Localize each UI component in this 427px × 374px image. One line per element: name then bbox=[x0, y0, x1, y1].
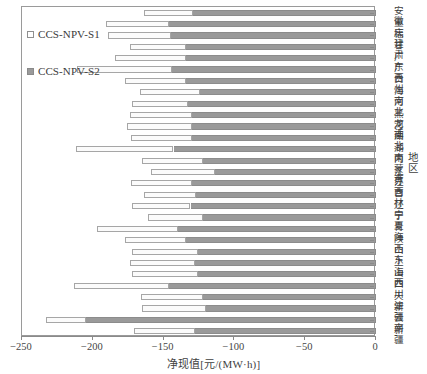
bar-segment-s2[interactable] bbox=[169, 21, 376, 27]
bar-segment-s2[interactable] bbox=[178, 226, 376, 232]
bar-segment-s2[interactable] bbox=[191, 203, 377, 209]
bar-segment-s2[interactable] bbox=[203, 214, 376, 220]
bar-row[interactable] bbox=[22, 78, 374, 84]
bar-segment-s2[interactable] bbox=[215, 169, 376, 175]
y-axis-tick bbox=[370, 70, 374, 71]
bars-layer bbox=[22, 7, 374, 335]
y-axis-tick bbox=[370, 263, 374, 264]
bar-segment-s1[interactable] bbox=[132, 271, 197, 277]
legend-item-ccs-npv-s2[interactable]: CCS-NPV-S2 bbox=[27, 65, 100, 77]
bar-segment-s2[interactable] bbox=[195, 328, 376, 334]
bar-row[interactable] bbox=[22, 135, 374, 141]
bar-segment-s1[interactable] bbox=[144, 10, 194, 16]
bar-row[interactable] bbox=[22, 146, 374, 152]
bar-segment-s1[interactable] bbox=[130, 112, 192, 118]
bar-row[interactable] bbox=[22, 180, 374, 186]
bar-row[interactable] bbox=[22, 226, 374, 232]
chart-root: −250−200−150−100−500 净现值[元/(MW·h)] 安徽重庆福… bbox=[0, 0, 427, 374]
bar-segment-s1[interactable] bbox=[74, 283, 169, 289]
bar-segment-s2[interactable] bbox=[188, 101, 376, 107]
bar-segment-s1[interactable] bbox=[130, 44, 187, 50]
bar-row[interactable] bbox=[22, 249, 374, 255]
bar-row[interactable] bbox=[22, 283, 374, 289]
y-axis-tick bbox=[370, 252, 374, 253]
bar-segment-s1[interactable] bbox=[131, 135, 192, 141]
bar-row[interactable] bbox=[22, 294, 374, 300]
y-axis-tick bbox=[370, 286, 374, 287]
bar-segment-s2[interactable] bbox=[203, 294, 376, 300]
bar-row[interactable] bbox=[22, 305, 374, 311]
bar-segment-s2[interactable] bbox=[198, 271, 376, 277]
bar-segment-s2[interactable] bbox=[192, 180, 376, 186]
bar-segment-s1[interactable] bbox=[97, 226, 178, 232]
bar-segment-s1[interactable] bbox=[108, 32, 170, 38]
bar-row[interactable] bbox=[22, 271, 374, 277]
y-axis-tick bbox=[370, 331, 374, 332]
bar-segment-s1[interactable] bbox=[46, 317, 86, 323]
bar-segment-s1[interactable] bbox=[76, 146, 174, 152]
bar-segment-s1[interactable] bbox=[132, 203, 190, 209]
bar-row[interactable] bbox=[22, 89, 374, 95]
bar-segment-s2[interactable] bbox=[171, 32, 376, 38]
bar-segment-s2[interactable] bbox=[193, 10, 376, 16]
bar-row[interactable] bbox=[22, 21, 374, 27]
bar-segment-s1[interactable] bbox=[131, 180, 192, 186]
bar-segment-s2[interactable] bbox=[196, 192, 376, 198]
bar-row[interactable] bbox=[22, 123, 374, 129]
bar-segment-s1[interactable] bbox=[142, 158, 203, 164]
bar-segment-s1[interactable] bbox=[141, 294, 203, 300]
bar-segment-s2[interactable] bbox=[186, 44, 376, 50]
y-axis-tick bbox=[370, 58, 374, 59]
bar-segment-s1[interactable] bbox=[132, 249, 197, 255]
bar-segment-s2[interactable] bbox=[200, 89, 376, 95]
bar-row[interactable] bbox=[22, 214, 374, 220]
bar-segment-s2[interactable] bbox=[198, 249, 376, 255]
bar-segment-s2[interactable] bbox=[195, 260, 376, 266]
bar-segment-s2[interactable] bbox=[186, 78, 376, 84]
legend-item-ccs-npv-s1[interactable]: CCS-NPV-S1 bbox=[27, 28, 100, 40]
bar-row[interactable] bbox=[22, 237, 374, 243]
bar-row[interactable] bbox=[22, 192, 374, 198]
bar-segment-s2[interactable] bbox=[172, 66, 376, 72]
bar-segment-s2[interactable] bbox=[86, 317, 376, 323]
bar-row[interactable] bbox=[22, 317, 374, 323]
bar-segment-s1[interactable] bbox=[148, 214, 203, 220]
y-axis-title: 地区 bbox=[404, 152, 419, 174]
bar-segment-s1[interactable] bbox=[106, 21, 170, 27]
bar-segment-s1[interactable] bbox=[140, 89, 201, 95]
legend-label-s1: CCS-NPV-S1 bbox=[38, 28, 100, 40]
bar-segment-s2[interactable] bbox=[169, 283, 376, 289]
bar-row[interactable] bbox=[22, 203, 374, 209]
bar-row[interactable] bbox=[22, 169, 374, 175]
bar-segment-s2[interactable] bbox=[192, 135, 376, 141]
bar-segment-s2[interactable] bbox=[203, 158, 376, 164]
y-axis-tick bbox=[370, 240, 374, 241]
bar-segment-s1[interactable] bbox=[125, 237, 186, 243]
y-axis-category-labels: 安徽重庆福建甘肃广东广西贵州海南河北黑龙江河南湖北湖南内蒙古江苏江西吉林辽宁宁夏… bbox=[377, 6, 404, 336]
bar-segment-s1[interactable] bbox=[115, 55, 186, 61]
bar-row[interactable] bbox=[22, 112, 374, 118]
bar-segment-s1[interactable] bbox=[127, 123, 192, 129]
bar-segment-s2[interactable] bbox=[186, 55, 376, 61]
bar-row[interactable] bbox=[22, 101, 374, 107]
y-axis-tick bbox=[370, 35, 374, 36]
bar-segment-s2[interactable] bbox=[206, 305, 376, 311]
bar-segment-s1[interactable] bbox=[142, 305, 206, 311]
bar-segment-s2[interactable] bbox=[192, 112, 376, 118]
bar-row[interactable] bbox=[22, 328, 374, 334]
bar-segment-s1[interactable] bbox=[151, 169, 215, 175]
bar-segment-s2[interactable] bbox=[186, 237, 376, 243]
bar-segment-s2[interactable] bbox=[192, 123, 376, 129]
bar-segment-s1[interactable] bbox=[125, 78, 186, 84]
bar-segment-s1[interactable] bbox=[144, 192, 196, 198]
x-axis-tick-label-2: −150 bbox=[152, 341, 174, 352]
bar-segment-s1[interactable] bbox=[132, 101, 187, 107]
bar-row[interactable] bbox=[22, 10, 374, 16]
bar-segment-s1[interactable] bbox=[130, 260, 195, 266]
bar-segment-s1[interactable] bbox=[134, 328, 195, 334]
bar-segment-s2[interactable] bbox=[174, 146, 376, 152]
bar-row[interactable] bbox=[22, 44, 374, 50]
bar-row[interactable] bbox=[22, 260, 374, 266]
bar-row[interactable] bbox=[22, 55, 374, 61]
bar-row[interactable] bbox=[22, 158, 374, 164]
